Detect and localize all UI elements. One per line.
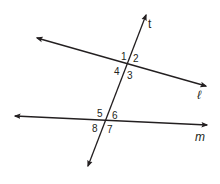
angle-2: 2: [133, 53, 139, 64]
label-t: t: [148, 17, 152, 31]
label-m: m: [195, 130, 205, 144]
angle-3: 3: [127, 70, 133, 81]
diagram-svg: t ℓ m 1 2 3 4 5 6 7 8: [0, 0, 220, 184]
label-l: ℓ: [197, 88, 202, 102]
angle-4: 4: [114, 66, 120, 77]
angle-8: 8: [92, 123, 98, 134]
angle-1: 1: [121, 51, 127, 62]
angle-6: 6: [112, 110, 118, 121]
angle-5: 5: [97, 108, 103, 119]
diagram-canvas: t ℓ m 1 2 3 4 5 6 7 8: [0, 0, 220, 184]
angle-7: 7: [107, 124, 113, 135]
transversal-t: [88, 15, 146, 166]
